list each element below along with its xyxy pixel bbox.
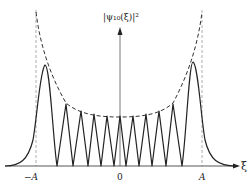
tick-label-minus-a: −A bbox=[24, 172, 38, 182]
tick-label-zero: 0 bbox=[117, 172, 123, 182]
tick-label-a: A bbox=[199, 172, 206, 182]
y-axis-label: |ψ₁₀(ξ)|² bbox=[103, 12, 139, 22]
y-axis-arrow-icon bbox=[118, 27, 123, 35]
classical-envelope-curve bbox=[36, 12, 202, 117]
x-axis-label: ξ bbox=[241, 160, 247, 173]
wavefunction-plot bbox=[0, 0, 249, 191]
probability-density-curve bbox=[5, 62, 236, 166]
